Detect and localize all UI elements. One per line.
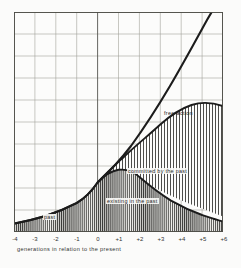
xtick-label-minus2: -2 <box>53 236 58 242</box>
xtick-label-plus5: +5 <box>200 236 207 242</box>
xtick-label-minus3: -3 <box>32 236 37 242</box>
annotation-free-action: free-action <box>164 110 193 116</box>
xtick-label-plus4: +4 <box>179 236 186 242</box>
figure-chart: free-action committed by the past existi… <box>0 0 241 268</box>
annotation-past: past <box>43 214 56 220</box>
xtick-label-minus4: -4 <box>12 236 17 242</box>
xtick-label-plus6: +6 <box>221 236 228 242</box>
xtick-label-zero: 0 <box>96 236 99 242</box>
xtick-label-plus2: +2 <box>137 236 144 242</box>
plot-area: free-action committed by the past existi… <box>14 12 223 232</box>
annotation-existing-in-the-past: existing in the past <box>106 198 159 204</box>
x-axis-caption: generations in relation to the present <box>17 246 121 252</box>
xtick-label-minus1: -1 <box>74 236 79 242</box>
xtick-label-plus3: +3 <box>158 236 165 242</box>
annotation-committed-by-the-past: committed by the past <box>127 168 188 174</box>
xtick-label-plus1: +1 <box>116 236 123 242</box>
